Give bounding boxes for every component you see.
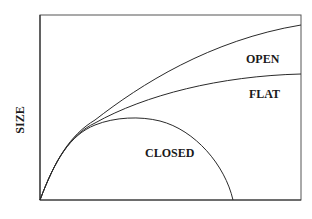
- flat-label: FLAT: [249, 87, 280, 101]
- y-axis-label: SIZE: [13, 106, 27, 133]
- open-label: OPEN: [246, 52, 280, 66]
- plot-frame: [40, 15, 301, 200]
- closed-curve: [40, 118, 233, 200]
- universe-size-diagram: OPEN FLAT CLOSED SIZE: [0, 0, 312, 219]
- closed-label: CLOSED: [145, 146, 195, 160]
